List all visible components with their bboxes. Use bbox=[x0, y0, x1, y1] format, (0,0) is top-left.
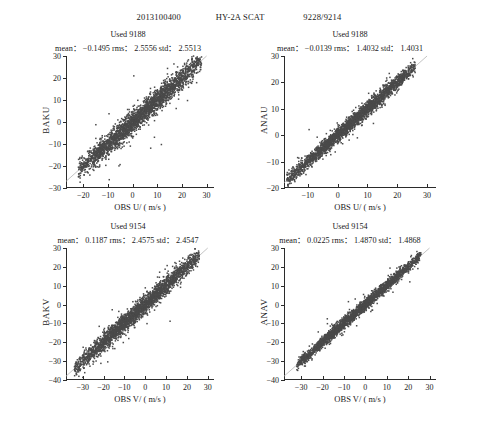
y-tick-label: 10 bbox=[271, 281, 279, 290]
x-tick-label: 10 bbox=[162, 383, 170, 392]
x-tick bbox=[207, 184, 208, 188]
x-tick bbox=[166, 376, 167, 380]
y-tick-label: −30 bbox=[266, 357, 279, 366]
panel-anav: Used 9154 mean： 0.0225 rms： 1.4870 std： … bbox=[250, 222, 450, 412]
scatter-points bbox=[284, 56, 436, 188]
x-tick bbox=[387, 376, 388, 380]
plot-area: OBS V/ ( m/s ) −40−30−20−100102030−30−20… bbox=[66, 248, 214, 380]
header-counts: 9228/9214 bbox=[303, 12, 341, 22]
figure-canvas: 2013100400 HY-2A SCAT 9228/9214 Used 918… bbox=[0, 0, 478, 434]
y-tick bbox=[63, 361, 67, 362]
y-tick-label: 20 bbox=[53, 74, 61, 83]
x-tick-label: 20 bbox=[178, 191, 186, 200]
plot-area: OBS U/ ( m/s ) −30−20−100102030−20−10010… bbox=[66, 56, 214, 188]
x-tick-label: −10 bbox=[102, 191, 115, 200]
header-instrument: HY-2A SCAT bbox=[216, 12, 265, 22]
y-tick bbox=[63, 267, 67, 268]
y-tick bbox=[63, 342, 67, 343]
y-tick-label: 30 bbox=[53, 244, 61, 253]
scatter-points bbox=[66, 56, 214, 188]
figure-header: 2013100400 HY-2A SCAT 9228/9214 bbox=[0, 12, 478, 22]
y-tick-label: −10 bbox=[266, 157, 279, 166]
plot-area: OBS U/ ( m/s ) −20−100102030−100102030 bbox=[284, 56, 436, 188]
y-tick bbox=[63, 323, 67, 324]
y-tick-label: −20 bbox=[266, 184, 279, 193]
x-tick-label: 0 bbox=[363, 383, 367, 392]
y-tick bbox=[281, 82, 285, 83]
x-tick-label: 0 bbox=[131, 191, 135, 200]
panel-x-axis-label: OBS V/ ( m/s ) bbox=[284, 394, 436, 404]
x-tick bbox=[338, 184, 339, 188]
y-tick-label: 20 bbox=[271, 262, 279, 271]
y-tick-label: −10 bbox=[266, 319, 279, 328]
scatter-points bbox=[284, 248, 436, 380]
y-tick bbox=[63, 78, 67, 79]
y-tick-label: 0 bbox=[57, 118, 61, 127]
x-tick-label: −20 bbox=[316, 383, 329, 392]
y-tick bbox=[63, 56, 67, 57]
y-tick-label: 30 bbox=[271, 244, 279, 253]
y-tick bbox=[281, 162, 285, 163]
y-tick bbox=[281, 380, 285, 381]
x-tick-label: 30 bbox=[204, 383, 212, 392]
x-tick bbox=[208, 376, 209, 380]
y-tick-label: −40 bbox=[48, 376, 61, 385]
y-tick-label: 0 bbox=[275, 131, 279, 140]
panel-used-label: Used 9154 bbox=[28, 222, 228, 231]
header-datetime: 2013100400 bbox=[137, 12, 182, 22]
panel-used-label: Used 9188 bbox=[28, 30, 228, 39]
x-tick-label: 0 bbox=[336, 191, 340, 200]
y-tick bbox=[281, 248, 285, 249]
y-tick-label: 10 bbox=[53, 281, 61, 290]
y-tick-label: −20 bbox=[48, 162, 61, 171]
x-tick bbox=[182, 184, 183, 188]
x-tick-label: −10 bbox=[302, 191, 315, 200]
x-tick bbox=[427, 184, 428, 188]
y-tick bbox=[281, 323, 285, 324]
x-tick bbox=[108, 184, 109, 188]
scatter-points bbox=[66, 248, 214, 380]
y-tick-label: 30 bbox=[271, 52, 279, 61]
x-tick bbox=[133, 184, 134, 188]
x-tick bbox=[430, 376, 431, 380]
y-tick bbox=[281, 342, 285, 343]
y-tick bbox=[63, 166, 67, 167]
x-tick bbox=[83, 376, 84, 380]
x-tick-label: 20 bbox=[183, 383, 191, 392]
y-tick bbox=[281, 135, 285, 136]
x-tick-label: 10 bbox=[363, 191, 371, 200]
y-tick-label: −10 bbox=[48, 140, 61, 149]
panel-x-axis-label: OBS U/ ( m/s ) bbox=[284, 202, 436, 212]
y-tick-label: 0 bbox=[275, 300, 279, 309]
x-tick-label: −10 bbox=[118, 383, 131, 392]
panel-baku: Used 9188 mean： −0.1495 rms： 2.5556 std：… bbox=[28, 30, 228, 215]
y-tick bbox=[281, 188, 285, 189]
x-tick bbox=[145, 376, 146, 380]
y-tick-label: −20 bbox=[266, 338, 279, 347]
y-tick bbox=[281, 267, 285, 268]
panel-used-label: Used 9188 bbox=[250, 30, 450, 39]
x-tick-label: −20 bbox=[77, 191, 90, 200]
x-tick bbox=[187, 376, 188, 380]
y-tick bbox=[281, 109, 285, 110]
plot-area: OBS V/ ( m/s ) −40−30−20−100102030−30−20… bbox=[284, 248, 436, 380]
x-tick-label: −20 bbox=[97, 383, 110, 392]
panel-stats-line: mean： −0.0139 rms： 1.4032 std： 1.4031 bbox=[250, 41, 450, 53]
y-tick-label: −30 bbox=[48, 357, 61, 366]
y-tick bbox=[63, 286, 67, 287]
x-tick bbox=[301, 376, 302, 380]
y-tick bbox=[63, 188, 67, 189]
x-tick bbox=[365, 376, 366, 380]
y-tick bbox=[63, 305, 67, 306]
x-tick bbox=[323, 376, 324, 380]
x-tick bbox=[124, 376, 125, 380]
x-tick-label: 30 bbox=[423, 191, 431, 200]
panel-stats-line: mean： 0.0225 rms： 1.4870 std： 1.4868 bbox=[250, 233, 450, 245]
x-tick bbox=[408, 376, 409, 380]
x-tick-label: −30 bbox=[76, 383, 89, 392]
y-tick bbox=[63, 144, 67, 145]
y-tick bbox=[281, 361, 285, 362]
panel-bakv: Used 9154 mean： 0.1187 rms： 2.4575 std： … bbox=[28, 222, 228, 412]
x-tick-label: 10 bbox=[383, 383, 391, 392]
y-tick-label: −40 bbox=[266, 376, 279, 385]
